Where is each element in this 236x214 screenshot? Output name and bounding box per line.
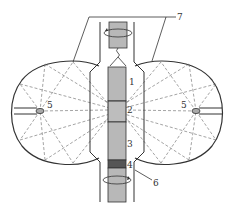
quartz-tube-right-wall <box>134 22 144 202</box>
right-halogen-lamp <box>192 108 200 113</box>
grown-crystal <box>108 122 126 160</box>
left-ellipsoidal-mirror <box>12 61 100 164</box>
tube-leader-line <box>135 170 152 180</box>
floating-zone-furnace-diagram: 7 1 2 3 4 6 5 5 <box>0 0 236 214</box>
hook <box>110 48 126 66</box>
seed-crystal <box>108 160 126 168</box>
label-tube: 6 <box>153 178 159 188</box>
label-molten-zone: 2 <box>127 105 133 115</box>
left-lamp-holder <box>14 108 37 114</box>
upper-rotation-arrowhead <box>105 28 108 31</box>
quartz-tube-left-wall <box>90 22 100 202</box>
upper-shaft <box>109 22 127 48</box>
right-light-rays <box>124 62 216 163</box>
left-light-rays <box>20 62 110 163</box>
left-halogen-lamp <box>36 108 44 113</box>
feed-rod <box>108 67 126 101</box>
label-grown-crystal: 3 <box>127 139 133 149</box>
right-ellipsoidal-mirror <box>135 61 223 164</box>
label-mirrors: 7 <box>177 12 183 22</box>
label-seed: 4 <box>127 160 133 170</box>
label-lamp-right: 5 <box>181 100 187 110</box>
right-lamp-holder <box>199 108 222 114</box>
label-lamp-left: 5 <box>47 100 53 110</box>
lower-shaft <box>108 168 126 202</box>
label-feed-rod: 1 <box>129 77 135 87</box>
molten-zone <box>108 101 126 122</box>
